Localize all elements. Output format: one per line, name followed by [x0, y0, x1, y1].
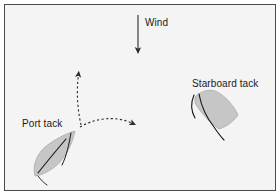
course-arrow-crosswind-group — [80, 119, 133, 127]
starboard-tack-hull — [195, 90, 238, 129]
diagram-frame: Wind Port tack Starboard tack — [4, 4, 276, 191]
port-tack-boat — [34, 131, 75, 185]
wind-label: Wind — [145, 17, 168, 29]
sailing-diagram: Wind Port tack Starboard tack — [0, 0, 280, 195]
course-arrow-upwind-path — [77, 74, 81, 125]
starboard-tack-sail-line — [192, 95, 195, 118]
starboard-tack-boat — [192, 90, 238, 140]
port-tack-wake-line — [38, 176, 47, 185]
starboard-tack-label: Starboard tack — [192, 78, 258, 90]
course-arrow-upwind-group — [77, 74, 81, 125]
course-arrow-crosswind-path — [80, 119, 133, 127]
port-tack-label: Port tack — [22, 118, 62, 130]
diagram-canvas — [5, 5, 275, 190]
